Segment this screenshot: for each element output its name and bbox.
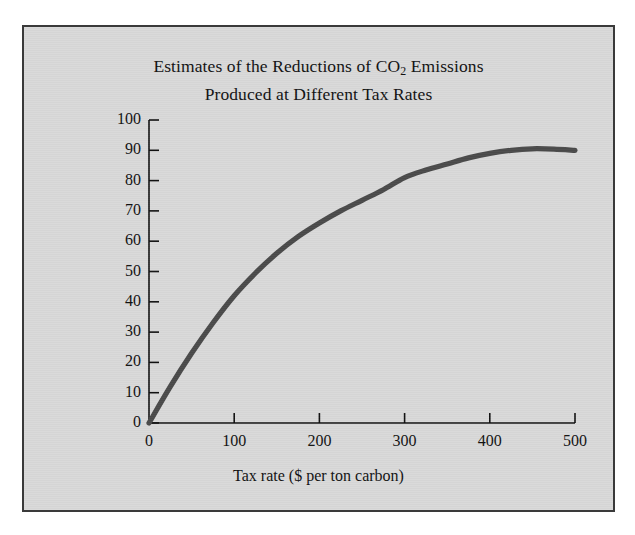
figure-panel: Estimates of the Reductions of CO2 Emiss… xyxy=(22,25,615,512)
data-curve-co2-reduction xyxy=(149,149,575,423)
x-tick-label: 0 xyxy=(119,432,179,450)
y-axis-ticks xyxy=(149,120,159,423)
plot-svg xyxy=(149,120,575,423)
y-tick-label: 0 xyxy=(101,413,141,431)
y-tick-label: 30 xyxy=(101,322,141,340)
plot-area: 0102030405060708090100 0100200300400500 xyxy=(149,120,575,423)
x-tick-label: 200 xyxy=(289,432,349,450)
x-axis-ticks xyxy=(234,413,575,423)
y-tick-label: 50 xyxy=(101,262,141,280)
x-axis-label: Tax rate ($ per ton carbon) xyxy=(24,467,613,485)
y-tick-label: 100 xyxy=(101,110,141,128)
y-tick-label: 20 xyxy=(101,352,141,370)
x-tick-label: 500 xyxy=(545,432,605,450)
y-tick-label: 10 xyxy=(101,383,141,401)
chart-title-line1-tail: Emissions xyxy=(406,56,483,76)
x-tick-label: 400 xyxy=(460,432,520,450)
y-tick-label: 80 xyxy=(101,171,141,189)
y-tick-label: 60 xyxy=(101,231,141,249)
x-tick-label: 300 xyxy=(375,432,435,450)
chart-title-line2: Produced at Different Tax Rates xyxy=(24,83,613,106)
y-tick-label: 40 xyxy=(101,292,141,310)
chart-title-line1-head: Estimates of the Reductions of CO xyxy=(153,56,400,76)
y-tick-label: 90 xyxy=(101,140,141,158)
chart-title: Estimates of the Reductions of CO2 Emiss… xyxy=(24,55,613,106)
y-tick-label: 70 xyxy=(101,201,141,219)
x-tick-label: 100 xyxy=(204,432,264,450)
axes xyxy=(149,120,575,423)
